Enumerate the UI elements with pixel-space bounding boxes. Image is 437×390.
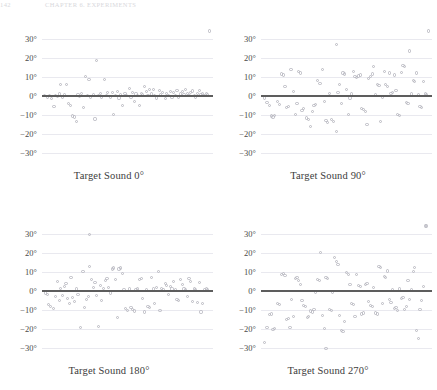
data-point xyxy=(82,106,85,109)
y-axis-tick-label: −30° xyxy=(20,149,37,158)
gridline xyxy=(261,253,432,254)
data-point xyxy=(417,337,420,340)
y-axis-tick-label: −20° xyxy=(239,325,256,334)
panel-caption: Target Sound 0° xyxy=(0,170,218,181)
data-point xyxy=(145,90,148,93)
y-axis-tick-label: 0° xyxy=(248,92,256,101)
data-point xyxy=(300,299,303,302)
panel-target-sound-270: 30°20°10°0°−10°−20°−30°Target Sound 270° xyxy=(219,195,437,390)
data-point xyxy=(403,308,406,311)
data-point xyxy=(116,90,119,93)
data-point xyxy=(140,277,143,280)
data-point xyxy=(46,293,49,296)
plot-area: 30°20°10°0°−10°−20°−30° xyxy=(42,226,213,356)
data-point xyxy=(415,71,418,74)
zero-reference-line xyxy=(261,95,432,97)
data-point xyxy=(389,301,392,304)
plot-area: 30°20°10°0°−10°−20°−30° xyxy=(42,31,213,161)
y-axis-tick-label: −30° xyxy=(239,149,256,158)
gridline xyxy=(261,77,432,78)
data-point xyxy=(341,330,344,333)
data-point xyxy=(288,326,291,329)
data-point xyxy=(143,310,146,313)
data-point xyxy=(150,276,153,279)
y-axis-tick-label: 30° xyxy=(244,229,256,238)
data-point xyxy=(75,120,78,123)
gridline xyxy=(261,329,432,330)
data-point xyxy=(292,90,295,93)
data-point xyxy=(295,102,298,105)
data-point xyxy=(273,114,276,117)
data-point xyxy=(304,305,307,308)
data-point xyxy=(92,286,95,289)
data-point xyxy=(372,286,375,289)
data-point xyxy=(388,71,391,74)
data-point xyxy=(372,65,375,68)
data-point xyxy=(208,29,211,32)
data-point xyxy=(422,285,425,288)
gridline xyxy=(261,348,432,349)
data-point xyxy=(167,293,170,296)
gridline xyxy=(261,39,432,40)
data-point xyxy=(100,299,103,302)
y-axis-tick-label: −10° xyxy=(20,111,37,120)
data-point xyxy=(138,104,141,107)
data-point xyxy=(268,104,271,107)
data-point xyxy=(191,300,194,303)
data-point xyxy=(403,65,406,68)
data-point xyxy=(398,114,401,117)
data-point xyxy=(383,70,386,73)
data-point xyxy=(367,300,370,303)
data-point xyxy=(179,278,182,281)
data-point xyxy=(95,294,98,297)
data-point xyxy=(198,281,201,284)
data-point xyxy=(126,309,129,312)
data-point xyxy=(420,299,423,302)
data-point xyxy=(364,110,367,113)
data-point xyxy=(63,285,66,288)
data-point xyxy=(318,82,321,85)
data-point xyxy=(164,97,167,100)
data-point xyxy=(319,251,322,254)
data-point xyxy=(181,283,184,286)
data-point xyxy=(326,121,329,124)
y-axis-tick-label: −20° xyxy=(20,325,37,334)
data-point xyxy=(270,312,273,315)
panel-target-sound-90: 30°20°10°0°−10°−20°−30°Target Sound 90° xyxy=(219,0,437,195)
data-point xyxy=(148,306,151,309)
data-point xyxy=(376,312,379,315)
panel-target-sound-0: 30°20°10°0°−10°−20°−30°Target Sound 0° xyxy=(0,0,218,195)
data-point xyxy=(61,294,64,297)
data-point xyxy=(353,315,356,318)
data-point xyxy=(69,276,72,279)
data-point xyxy=(66,297,69,300)
data-point xyxy=(103,78,106,81)
gridline xyxy=(42,134,213,135)
data-point xyxy=(406,279,409,282)
y-axis-tick-label: −20° xyxy=(20,130,37,139)
data-point xyxy=(121,104,124,107)
y-axis-tick-label: 0° xyxy=(248,287,256,296)
data-point xyxy=(343,320,346,323)
data-point xyxy=(175,89,178,92)
panel-target-sound-180: 30°20°10°0°−10°−20°−30°Target Sound 180° xyxy=(0,195,218,390)
data-point xyxy=(420,106,423,109)
data-point xyxy=(365,123,368,126)
data-point xyxy=(199,310,202,313)
data-point xyxy=(422,80,425,83)
data-point xyxy=(191,89,194,92)
data-point xyxy=(76,293,79,296)
gridline xyxy=(42,272,213,273)
data-point xyxy=(348,96,351,99)
data-point xyxy=(323,100,326,103)
data-point xyxy=(95,59,98,62)
data-point xyxy=(355,273,358,276)
gridline xyxy=(42,77,213,78)
data-point xyxy=(425,224,428,227)
data-point xyxy=(172,280,175,283)
gridline xyxy=(261,153,432,154)
data-point xyxy=(326,277,329,280)
data-point xyxy=(283,85,286,88)
gridline xyxy=(42,234,213,235)
data-point xyxy=(314,103,317,106)
